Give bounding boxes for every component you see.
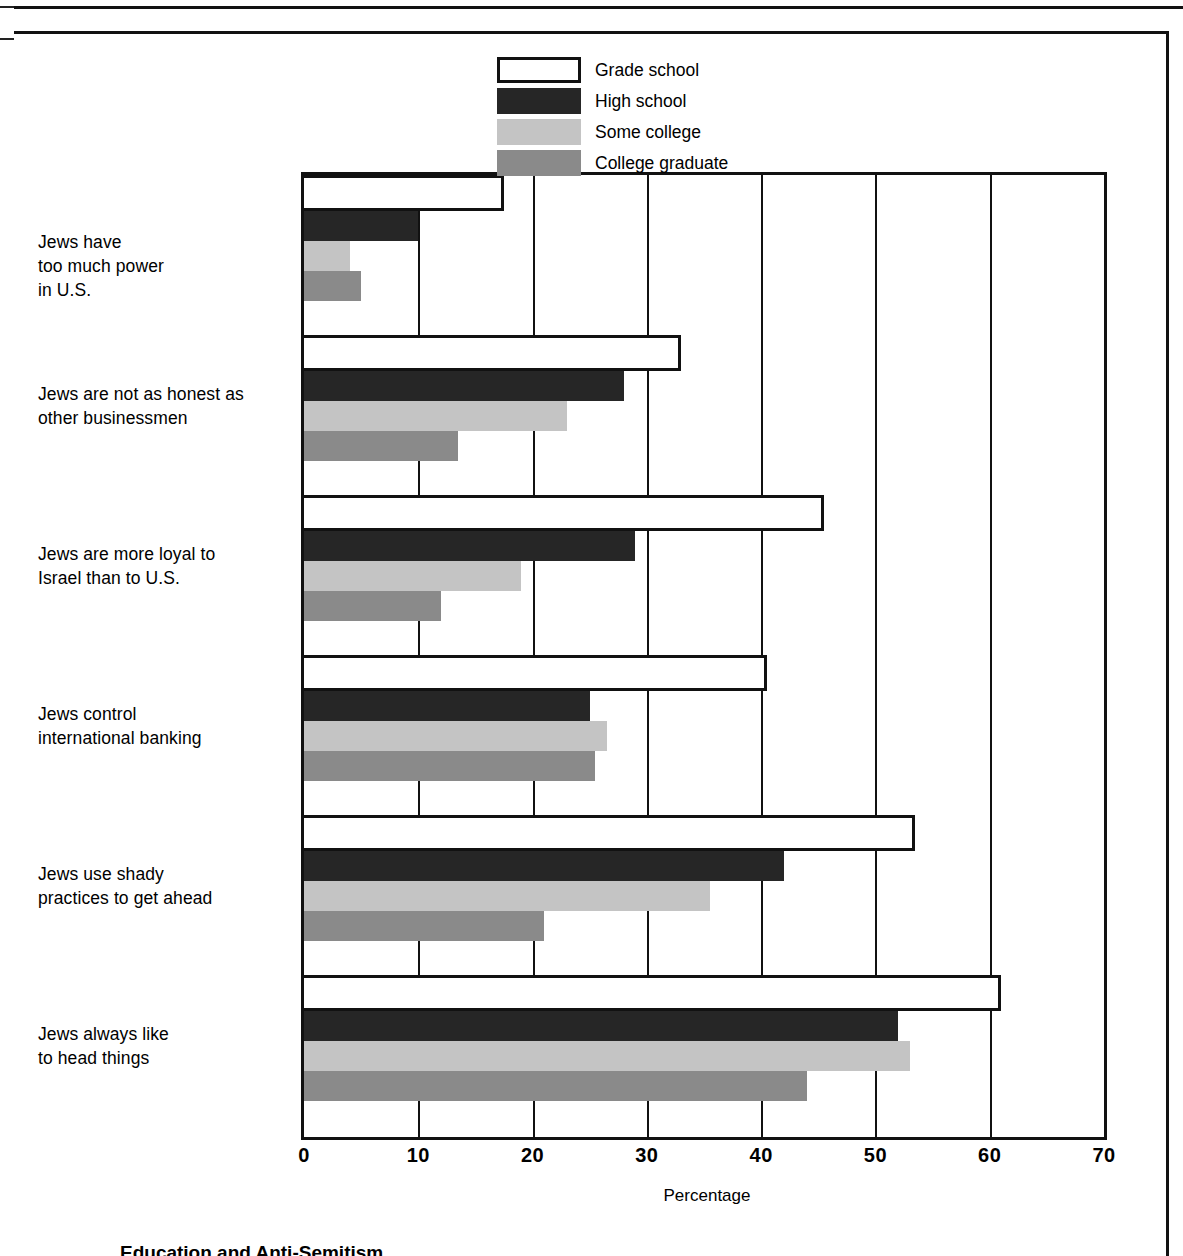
category-label-3-line-1: international banking xyxy=(38,726,296,750)
x-tick-label-30: 30 xyxy=(635,1144,658,1167)
legend-item-college-graduate: College graduate xyxy=(497,147,728,178)
category-label-5-line-0: Jews always like xyxy=(38,1022,296,1046)
bar-grade-school-group-5 xyxy=(304,975,1001,1011)
bar-some-college-group-2 xyxy=(304,561,521,591)
legend-label-some-college: Some college xyxy=(595,122,701,142)
category-label-3: Jews control international banking xyxy=(38,702,296,750)
bar-group-0 xyxy=(304,181,1104,309)
category-label-2-line-0: Jews are more loyal to xyxy=(38,542,296,566)
x-axis-tick-labels: 010203040506070 xyxy=(301,1144,1113,1174)
category-label-1-line-0: Jews are not as honest as xyxy=(38,382,296,406)
category-axis-labels: Jews have too much power in U.S. Jews ar… xyxy=(38,34,296,1140)
bar-group-4 xyxy=(304,821,1104,949)
legend-label-high-school: High school xyxy=(595,91,686,111)
bar-group-5 xyxy=(304,981,1104,1109)
legend-swatch-high-school xyxy=(497,88,581,114)
category-label-0-line-0: Jews have xyxy=(38,230,296,254)
category-label-1-line-1: other businessmen xyxy=(38,406,296,430)
bar-group-3 xyxy=(304,661,1104,789)
bar-grade-school-group-4 xyxy=(304,815,915,851)
bar-college-graduate-group-0 xyxy=(304,271,361,301)
legend-item-high-school: High school xyxy=(497,85,728,116)
bar-high-school-group-3 xyxy=(304,691,590,721)
bar-some-college-group-4 xyxy=(304,881,710,911)
category-label-4-line-1: practices to get ahead xyxy=(38,886,296,910)
category-label-4-line-0: Jews use shady xyxy=(38,862,296,886)
x-tick-label-10: 10 xyxy=(407,1144,430,1167)
bar-some-college-group-3 xyxy=(304,721,607,751)
legend-label-grade-school: Grade school xyxy=(595,60,699,80)
legend: Grade school High school Some college Co… xyxy=(497,54,728,178)
x-tick-label-60: 60 xyxy=(978,1144,1001,1167)
page-border-right xyxy=(1166,31,1169,1256)
bar-college-graduate-group-4 xyxy=(304,911,544,941)
x-tick-label-50: 50 xyxy=(864,1144,887,1167)
x-tick-label-20: 20 xyxy=(521,1144,544,1167)
plot-area xyxy=(301,172,1107,1140)
legend-swatch-some-college xyxy=(497,119,581,145)
bar-some-college-group-1 xyxy=(304,401,567,431)
category-label-5: Jews always like to head things xyxy=(38,1022,296,1070)
bar-college-graduate-group-3 xyxy=(304,751,595,781)
bar-grade-school-group-1 xyxy=(304,335,681,371)
category-label-2-line-1: Israel than to U.S. xyxy=(38,566,296,590)
bar-high-school-group-5 xyxy=(304,1011,898,1041)
bar-group-1 xyxy=(304,341,1104,469)
x-axis-title: Percentage xyxy=(301,1186,1113,1206)
category-label-3-line-0: Jews control xyxy=(38,702,296,726)
x-tick-label-70: 70 xyxy=(1092,1144,1115,1167)
legend-swatch-grade-school xyxy=(497,57,581,83)
legend-item-some-college: Some college xyxy=(497,116,728,147)
bar-high-school-group-1 xyxy=(304,371,624,401)
category-label-4: Jews use shady practices to get ahead xyxy=(38,862,296,910)
category-label-2: Jews are more loyal to Israel than to U.… xyxy=(38,542,296,590)
legend-swatch-college-graduate xyxy=(497,150,581,176)
legend-label-college-graduate: College graduate xyxy=(595,153,728,173)
legend-item-grade-school: Grade school xyxy=(497,54,728,85)
bar-college-graduate-group-5 xyxy=(304,1071,807,1101)
bar-chart-figure: Jews have too much power in U.S. Jews ar… xyxy=(0,34,1160,1249)
x-tick-label-0: 0 xyxy=(298,1144,310,1167)
category-label-0-line-2: in U.S. xyxy=(38,278,296,302)
page-rule-top xyxy=(14,6,1183,9)
category-label-5-line-1: to head things xyxy=(38,1046,296,1070)
bar-group-2 xyxy=(304,501,1104,629)
category-label-0: Jews have too much power in U.S. xyxy=(38,230,296,302)
plot-inner xyxy=(304,175,1104,1137)
category-label-0-line-1: too much power xyxy=(38,254,296,278)
page-edge-mark-upper xyxy=(0,6,14,8)
bar-grade-school-group-3 xyxy=(304,655,767,691)
category-label-1: Jews are not as honest as other business… xyxy=(38,382,296,430)
bar-college-graduate-group-1 xyxy=(304,431,458,461)
bar-grade-school-group-2 xyxy=(304,495,824,531)
bar-college-graduate-group-2 xyxy=(304,591,441,621)
figure-caption: Education and Anti-Semitism xyxy=(120,1242,383,1256)
bar-high-school-group-4 xyxy=(304,851,784,881)
bar-grade-school-group-0 xyxy=(304,175,504,211)
bar-some-college-group-0 xyxy=(304,241,350,271)
bar-some-college-group-5 xyxy=(304,1041,910,1071)
bar-high-school-group-2 xyxy=(304,531,635,561)
x-tick-label-40: 40 xyxy=(750,1144,773,1167)
bar-high-school-group-0 xyxy=(304,211,418,241)
